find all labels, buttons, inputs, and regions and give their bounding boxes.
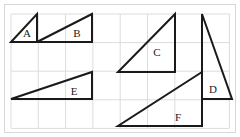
triangle-label-f: F (175, 111, 181, 123)
triangle-label-a: A (23, 27, 31, 39)
triangle-label-e: E (71, 85, 78, 97)
triangles-figure: A B C D E F (0, 0, 240, 137)
triangles-canvas: A B C D E F (0, 0, 240, 137)
triangle-label-b: B (73, 27, 80, 39)
triangle-label-d: D (209, 83, 217, 95)
triangle-label-c: C (153, 46, 160, 58)
